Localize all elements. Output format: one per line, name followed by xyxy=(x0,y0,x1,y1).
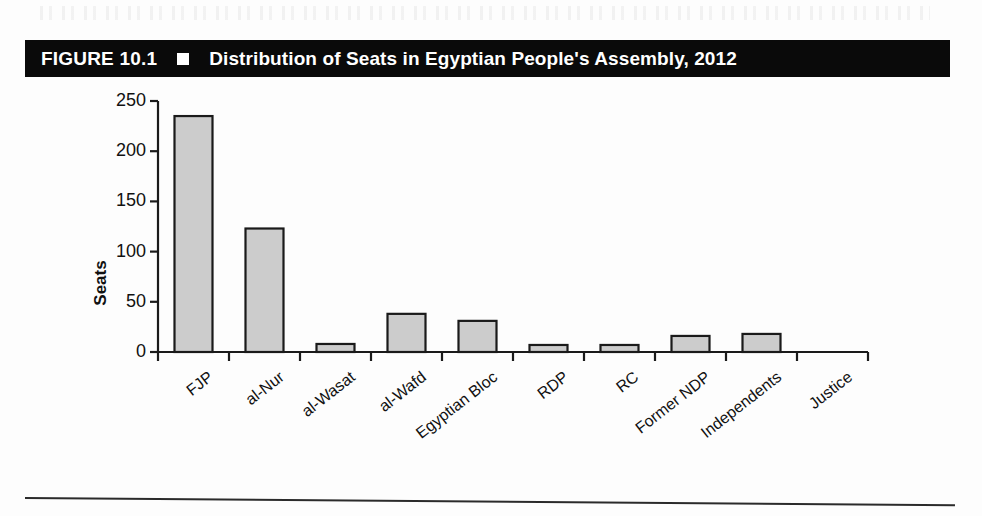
scan-artifact xyxy=(40,6,930,20)
bar xyxy=(530,345,568,352)
figure-container: FIGURE 10.1 Distribution of Seats in Egy… xyxy=(0,0,982,516)
bar xyxy=(459,321,497,352)
bottom-divider-rule xyxy=(25,497,955,506)
figure-number: FIGURE 10.1 xyxy=(41,48,157,70)
bar xyxy=(743,334,781,352)
bar xyxy=(246,229,284,352)
bar xyxy=(672,336,710,352)
white-square-marker-icon xyxy=(177,53,189,65)
figure-title-bar: FIGURE 10.1 Distribution of Seats in Egy… xyxy=(25,40,950,77)
bar xyxy=(175,116,213,352)
bar-chart-svg xyxy=(0,77,982,477)
bar xyxy=(388,314,426,352)
bar xyxy=(601,345,639,352)
bar xyxy=(317,344,355,352)
chart-plot-area: Seats 050100150200250 FJPal-Nural-Wasata… xyxy=(0,77,982,477)
figure-caption: Distribution of Seats in Egyptian People… xyxy=(209,48,737,70)
